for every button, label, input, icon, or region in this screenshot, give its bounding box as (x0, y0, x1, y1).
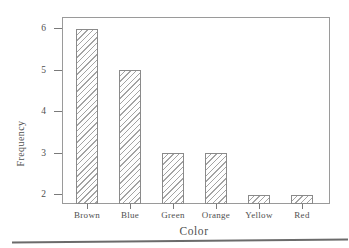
bar (205, 153, 227, 204)
x-tick-label: Yellow (236, 210, 282, 220)
y-tick-mark (54, 28, 62, 29)
bottom-separator-line (12, 239, 348, 244)
x-tick-label: Red (279, 210, 325, 220)
x-tick-mark (216, 204, 217, 209)
x-tick-label: Green (150, 210, 196, 220)
bar (162, 153, 184, 204)
bar-chart-figure: Frequency Color 23456BrownBlueGreenOrang… (0, 0, 349, 248)
x-tick-mark (302, 204, 303, 209)
bar (119, 70, 141, 204)
y-tick-mark (54, 194, 62, 195)
y-axis-label: Frequency (14, 94, 27, 194)
x-tick-label: Blue (107, 210, 153, 220)
y-tick-mark (54, 153, 62, 154)
x-tick-mark (259, 204, 260, 209)
y-tick-label: 4 (26, 106, 46, 117)
y-tick-label: 3 (26, 148, 46, 159)
bar (248, 195, 270, 204)
y-tick-label: 2 (26, 189, 46, 200)
x-tick-mark (130, 204, 131, 209)
y-tick-mark (54, 111, 62, 112)
y-tick-label: 6 (26, 23, 46, 34)
y-tick-label: 5 (26, 65, 46, 76)
x-tick-mark (87, 204, 88, 209)
plot-area (62, 17, 330, 204)
y-tick-mark (54, 70, 62, 71)
x-tick-label: Orange (193, 210, 239, 220)
bar (76, 29, 98, 204)
x-tick-mark (173, 204, 174, 209)
bar (291, 195, 313, 204)
x-axis-label: Color (144, 225, 244, 237)
x-tick-label: Brown (64, 210, 110, 220)
